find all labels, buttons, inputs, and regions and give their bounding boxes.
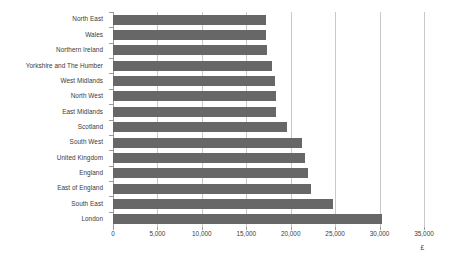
category-label: South East	[0, 196, 108, 211]
bar[interactable]	[113, 45, 267, 55]
category-label: Yorkshire and The Humber	[0, 58, 108, 73]
bar[interactable]	[113, 122, 287, 132]
bar-row	[113, 27, 424, 42]
bar[interactable]	[113, 199, 333, 209]
value-axis-tick-label: 25,000	[325, 231, 345, 237]
category-label: London	[0, 212, 108, 227]
value-axis-tick-label: 0	[111, 231, 115, 237]
value-axis-title: £	[113, 245, 424, 251]
bar-row	[113, 73, 424, 88]
gridline	[424, 12, 425, 227]
bar[interactable]	[113, 91, 276, 101]
bar-row	[113, 212, 424, 227]
bar[interactable]	[113, 214, 382, 224]
bar-series	[113, 12, 424, 227]
bar-row	[113, 150, 424, 165]
category-label: North West	[0, 89, 108, 104]
category-label: North East	[0, 12, 108, 27]
bar[interactable]	[113, 168, 308, 178]
value-axis-tick-label: 15,000	[237, 231, 257, 237]
bar-row	[113, 181, 424, 196]
bar-row	[113, 196, 424, 211]
bar[interactable]	[113, 153, 305, 163]
bar[interactable]	[113, 184, 311, 194]
category-label: Wales	[0, 27, 108, 42]
category-label: East Midlands	[0, 104, 108, 119]
value-axis-tick-label: 10,000	[192, 231, 212, 237]
plot-area	[113, 12, 424, 227]
bar[interactable]	[113, 107, 276, 117]
category-label: South West	[0, 135, 108, 150]
bar[interactable]	[113, 61, 272, 71]
bar-row	[113, 104, 424, 119]
category-label: Scotland	[0, 120, 108, 135]
value-axis-tick-label: 30,000	[370, 231, 390, 237]
bar-row	[113, 89, 424, 104]
bar[interactable]	[113, 138, 302, 148]
bar-row	[113, 120, 424, 135]
value-axis-tick-label: 35,000	[414, 231, 434, 237]
category-label: Northern Ireland	[0, 43, 108, 58]
bar-row	[113, 43, 424, 58]
bar-row	[113, 12, 424, 27]
bar[interactable]	[113, 30, 266, 40]
category-label: West Midlands	[0, 73, 108, 88]
category-axis: North EastWalesNorthern IrelandYorkshire…	[0, 12, 108, 227]
bar-row	[113, 58, 424, 73]
bar-row	[113, 166, 424, 181]
value-axis-tick-label: 5,000	[149, 231, 165, 237]
category-label: United Kingdom	[0, 150, 108, 165]
bar[interactable]	[113, 15, 266, 25]
category-label: England	[0, 166, 108, 181]
category-label: East of England	[0, 181, 108, 196]
value-axis-tick-label: 20,000	[281, 231, 301, 237]
bar-row	[113, 135, 424, 150]
bar-chart: North EastWalesNorthern IrelandYorkshire…	[0, 0, 461, 265]
bar[interactable]	[113, 76, 275, 86]
value-axis-labels: 05,00010,00015,00020,00025,00030,00035,0…	[113, 231, 424, 243]
